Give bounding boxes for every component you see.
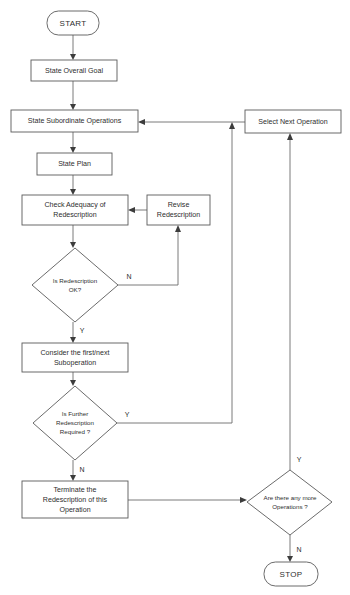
node-state-plan[interactable]: State Plan [37,153,112,175]
node-start-label: START [60,19,87,28]
node-start[interactable]: START [47,11,99,35]
node-stop-label: STOP [280,570,303,579]
edge-decision-further-no-to-terminate [70,460,76,481]
edge-label-any-more-yes: Y [297,456,302,463]
flowchart-diagram: Revise Redescription (right, up, arrow i… [0,0,350,595]
node-state-plan-label: State Plan [58,160,91,168]
node-decision-is-redescription-ok-label-line1: Is Redescription [53,277,98,284]
edge-state-plan-to-check-adequacy [70,175,76,195]
edge-decision-any-more-yes-to-select-next [287,133,293,470]
node-check-adequacy[interactable]: Check Adequacy of Redescription [22,195,128,225]
node-stop[interactable]: STOP [264,562,318,586]
node-terminate-redescription-label-line3: Operation [59,506,90,514]
node-state-subordinate-operations-label: State Subordinate Operations [28,117,122,125]
node-decision-is-further-redescription[interactable]: Is Further Redescription Required ? [33,386,117,460]
edge-label-redescription-ok-yes: Y [80,327,85,334]
node-revise-redescription-label-line2: Redescription [157,211,200,219]
edge-revise-to-check-adequacy [128,207,147,213]
node-consider-suboperation[interactable]: Consider the first/next Suboperation [22,343,128,372]
node-select-next-operation-label: Select Next Operation [258,118,327,126]
edge-label-any-more-no: N [296,546,301,553]
edge-label-further-redescription-yes: Y [125,411,130,418]
edge-label-further-redescription-no: N [79,466,84,473]
node-consider-suboperation-label-line2: Suboperation [54,359,96,367]
node-terminate-redescription-label-line2: Redescription of this [43,496,108,504]
node-decision-any-more-operations[interactable]: Are there any more Operations ? [247,470,332,535]
node-decision-is-redescription-ok[interactable]: Is Redescription OK? [32,248,118,322]
node-decision-is-further-redescription-label-line2: Redescription [56,419,94,426]
node-select-next-operation[interactable]: Select Next Operation [245,110,341,133]
edge-check-adequacy-to-decision-ok [70,225,76,248]
edge-subordinate-operations-to-state-plan [70,132,76,153]
node-consider-suboperation-label-line1: Consider the first/next [41,349,110,357]
node-decision-any-more-operations-label-line1: Are there any more [264,494,318,501]
edge-decision-further-yes-to-subordinate-operations [117,122,235,423]
node-state-subordinate-operations[interactable]: State Subordinate Operations [11,110,138,132]
edge-goal-to-subordinate-operations [70,81,76,110]
node-decision-is-further-redescription-label-line1: Is Further [62,410,88,417]
node-state-overall-goal[interactable]: State Overall Goal [31,60,117,81]
edge-decision-any-more-no-to-stop [287,535,293,562]
node-terminate-redescription-label-line1: Terminate the [54,486,97,494]
node-check-adequacy-label-line1: Check Adequacy of [44,201,105,209]
node-state-overall-goal-label: State Overall Goal [45,67,103,75]
flowchart-canvas: Revise Redescription (right, up, arrow i… [0,0,350,595]
edge-trunk-into-subordinate-operations [138,119,245,125]
node-terminate-redescription[interactable]: Terminate the Redescription of this Oper… [22,481,128,518]
edge-decision-ok-yes-to-consider [70,322,76,343]
edge-terminate-to-decision-any-more [128,497,247,503]
edge-start-to-state-overall-goal [70,35,76,60]
node-decision-any-more-operations-label-line2: Operations ? [272,503,308,510]
edge-consider-to-decision-further [70,372,76,386]
node-check-adequacy-label-line2: Redescription [53,211,96,219]
node-decision-is-further-redescription-label-line3: Required ? [60,428,91,435]
edge-label-redescription-ok-no: N [126,273,131,280]
node-decision-is-redescription-ok-label-line2: OK? [69,286,82,293]
node-revise-redescription[interactable]: Revise Redescription [147,195,210,225]
node-revise-redescription-label-line1: Revise [168,201,190,209]
